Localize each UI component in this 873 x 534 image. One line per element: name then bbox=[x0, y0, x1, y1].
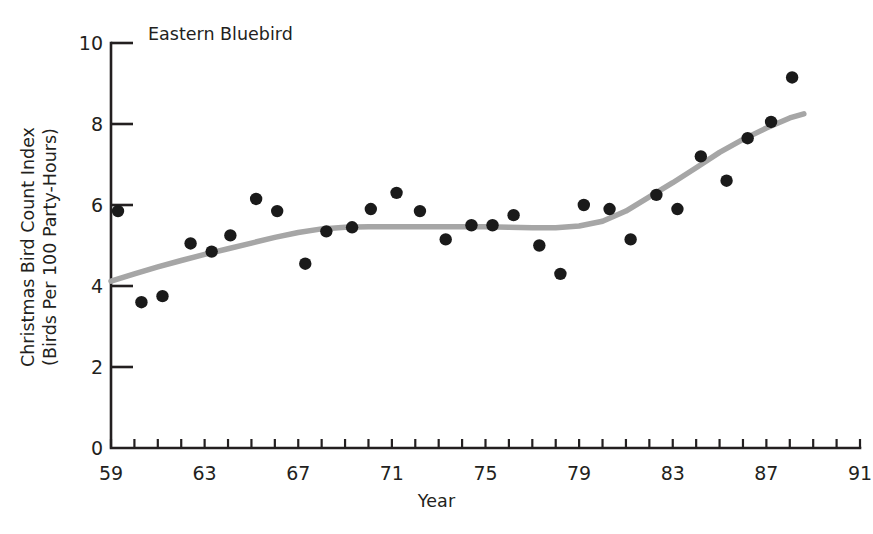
x-tick-label: 79 bbox=[567, 462, 591, 484]
x-tick-label: 71 bbox=[380, 462, 404, 484]
x-tick-label: 75 bbox=[473, 462, 497, 484]
y-tick-label: 4 bbox=[65, 275, 103, 297]
y-tick-label: 10 bbox=[65, 32, 103, 54]
axis-lines bbox=[111, 43, 860, 448]
y-tick-label: 0 bbox=[65, 437, 103, 459]
x-tick-label: 67 bbox=[286, 462, 310, 484]
chart-figure: Eastern Bluebird Christmas Bird Count In… bbox=[0, 0, 873, 534]
x-axis-ticks bbox=[111, 439, 860, 448]
y-tick-label: 2 bbox=[65, 356, 103, 378]
chart-plot-area bbox=[0, 0, 873, 534]
y-tick-label: 6 bbox=[65, 194, 103, 216]
y-axis-ticks bbox=[111, 43, 133, 367]
x-tick-label: 83 bbox=[661, 462, 685, 484]
x-tick-label: 63 bbox=[193, 462, 217, 484]
x-tick-label: 87 bbox=[754, 462, 778, 484]
data-points bbox=[112, 71, 799, 308]
x-tick-label: 91 bbox=[848, 462, 872, 484]
x-tick-label: 59 bbox=[99, 462, 123, 484]
y-tick-label: 8 bbox=[65, 113, 103, 135]
